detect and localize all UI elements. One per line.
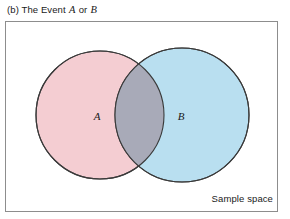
sample-space-label: Sample space (212, 193, 273, 204)
venn-diagram (0, 0, 290, 219)
set-a-label: A (94, 110, 101, 122)
set-b-label: B (178, 110, 185, 122)
